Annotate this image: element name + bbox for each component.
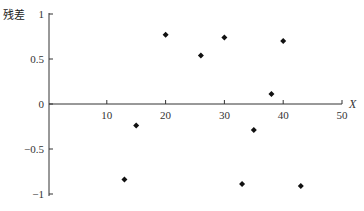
data-points (121, 32, 303, 189)
residual-scatter-chart: 10.50−0.5−1 1020304050 残差 X (0, 0, 364, 211)
y-tick-label: 0 (39, 98, 45, 110)
diamond-marker-icon (133, 123, 139, 129)
x-tick-label: 40 (278, 109, 290, 121)
y-tick-label: −0.5 (24, 143, 44, 155)
diamond-marker-icon (251, 127, 257, 133)
diamond-marker-icon (298, 183, 304, 189)
y-axis-title: 残差 (3, 8, 25, 22)
diamond-marker-icon (121, 177, 127, 183)
diamond-marker-icon (280, 38, 286, 44)
diamond-marker-icon (163, 32, 169, 38)
diamond-marker-icon (268, 91, 274, 97)
diamond-marker-icon (239, 181, 245, 187)
diamond-marker-icon (198, 52, 204, 58)
x-tick-label: 30 (219, 109, 231, 121)
x-tick-label: 10 (101, 109, 113, 121)
y-tick-label: 1 (39, 8, 45, 20)
x-tick-label: 20 (160, 109, 172, 121)
x-tick-label: 50 (337, 109, 349, 121)
diamond-marker-icon (221, 34, 227, 40)
x-axis-title: X (348, 97, 357, 111)
axes (49, 13, 342, 196)
y-tick-label: 0.5 (30, 53, 44, 65)
x-ticks: 1020304050 (101, 100, 348, 121)
y-tick-label: −1 (32, 188, 44, 200)
